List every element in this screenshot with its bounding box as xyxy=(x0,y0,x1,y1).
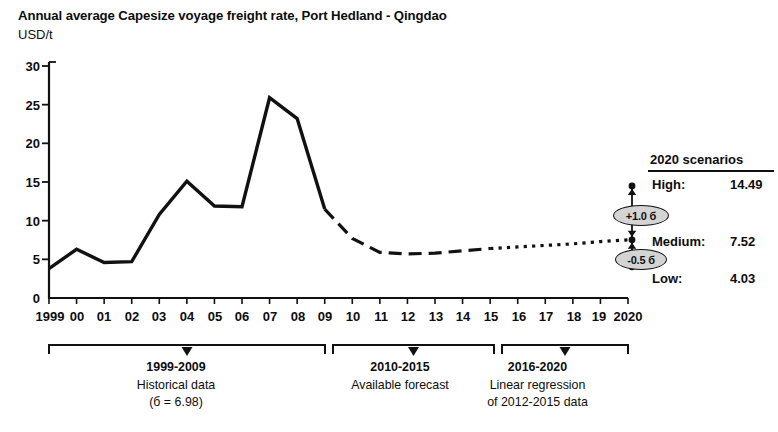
bracket-3-line1: Linear regression xyxy=(455,377,620,393)
upper-sigma-pill: +1.0 б xyxy=(613,205,669,226)
bracket-1-line2: (б = 6.98) xyxy=(86,394,266,410)
x-tick-2006: 06 xyxy=(229,310,255,323)
scenario-value-medium: 7.52 xyxy=(730,234,755,249)
x-tick-1999: 1999 xyxy=(32,310,68,323)
bracket-3-range: 2016-2020 xyxy=(455,360,620,376)
x-tick-2013: 13 xyxy=(423,310,449,323)
axis-spine xyxy=(49,62,628,298)
scenario-label-low: Low: xyxy=(652,271,682,286)
y-tick-5: 5 xyxy=(14,253,40,266)
x-tick-2005: 05 xyxy=(202,310,228,323)
y-tick-0: 0 xyxy=(14,292,40,305)
scenarios-heading: 2020 scenarios xyxy=(650,152,743,167)
lower-sigma-pill: -0.5 б xyxy=(615,249,667,270)
x-tick-2010: 10 xyxy=(340,310,366,323)
medium-marker-dot xyxy=(629,236,636,243)
x-tick-2008: 08 xyxy=(285,310,311,323)
x-tick-2017: 17 xyxy=(533,310,559,323)
x-tick-2012: 12 xyxy=(395,310,421,323)
series-line-solid xyxy=(49,98,325,269)
x-tick-2007: 07 xyxy=(257,310,283,323)
x-tick-2000: 00 xyxy=(64,310,90,323)
arrow-up-to-medium xyxy=(628,243,636,249)
scenario-value-high: 14.49 xyxy=(730,177,763,192)
x-tick-2020: 2020 xyxy=(610,310,646,323)
bracket-2-line1: Available forecast xyxy=(330,377,470,393)
plot-area: 30 25 20 15 10 5 0 1999 00 01 02 03 04 0… xyxy=(0,0,778,432)
x-tick-2014: 14 xyxy=(450,310,476,323)
x-tick-2016: 16 xyxy=(506,310,532,323)
x-tick-2011: 11 xyxy=(368,310,394,323)
bracket-2-range: 2010-2015 xyxy=(335,360,465,376)
scenarios-divider xyxy=(648,170,774,172)
y-tick-25: 25 xyxy=(14,99,40,112)
bracket-3-line2: of 2012-2015 data xyxy=(455,394,620,410)
bracket-1-line1: Historical data xyxy=(86,377,266,393)
x-tick-2015: 15 xyxy=(478,310,504,323)
bracket-2010-2015-pointer xyxy=(408,347,419,356)
bracket-2016-2020-pointer xyxy=(560,347,571,356)
arrow-up-high xyxy=(628,189,636,195)
x-tick-2003: 03 xyxy=(146,310,172,323)
chart-page: Annual average Capesize voyage freight r… xyxy=(0,0,778,432)
x-tick-2002: 02 xyxy=(119,310,145,323)
bracket-1999-2009-pointer xyxy=(182,347,193,356)
y-tick-15: 15 xyxy=(14,176,40,189)
high-marker-dot xyxy=(629,183,636,190)
x-tick-2018: 18 xyxy=(561,310,587,323)
scenario-label-high: High: xyxy=(652,177,685,192)
y-tick-20: 20 xyxy=(14,137,40,150)
series-line-dashed xyxy=(325,209,490,254)
arrow-down-to-medium xyxy=(628,231,636,237)
x-tick-2004: 04 xyxy=(174,310,200,323)
y-tick-10: 10 xyxy=(14,215,40,228)
series-line-dotted xyxy=(490,240,628,249)
bracket-1-range: 1999-2009 xyxy=(86,360,266,376)
scenario-value-low: 4.03 xyxy=(730,271,755,286)
scenario-label-medium: Medium: xyxy=(652,234,705,249)
x-tick-2009: 09 xyxy=(312,310,338,323)
x-tick-2001: 01 xyxy=(91,310,117,323)
x-tick-2019: 19 xyxy=(586,310,612,323)
y-tick-30: 30 xyxy=(14,60,40,73)
